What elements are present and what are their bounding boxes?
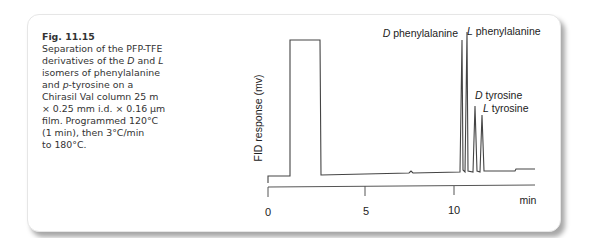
tick-label-10: 10 xyxy=(448,204,460,216)
y-axis-label: FID response (mv) xyxy=(252,75,264,162)
tick-label-5: 5 xyxy=(363,205,369,217)
label-d-tyrosine: D tyrosine xyxy=(475,89,522,101)
label-l-tyrosine: L tyrosine xyxy=(483,102,529,114)
x-axis xyxy=(268,185,535,187)
chromatogram: 0 5 10 min FID response (mv) D phenylala… xyxy=(0,0,589,238)
label-d-phenylalanine: D phenylalanine xyxy=(383,27,458,39)
label-l-phenylalanine: L phenylalanine xyxy=(467,25,541,37)
tick-label-0: 0 xyxy=(265,206,271,218)
x-axis-label: min xyxy=(520,194,537,206)
